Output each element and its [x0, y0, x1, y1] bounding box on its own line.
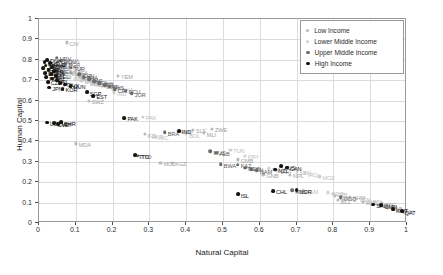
- data-point: [47, 86, 51, 90]
- point-label: ISL: [241, 193, 249, 199]
- y-tick: [35, 100, 38, 101]
- gridline-horizontal: [39, 182, 405, 183]
- point-label: KOR: [66, 87, 78, 93]
- y-tick-label: 0.9: [6, 35, 32, 42]
- legend: Low Income Lower Middle Income Upper Mid…: [300, 20, 404, 74]
- point-label: CAN: [290, 166, 302, 172]
- data-point: [339, 195, 343, 199]
- data-point: [219, 162, 223, 166]
- x-tick: [222, 222, 223, 225]
- data-point: [371, 203, 375, 207]
- x-tick: [296, 222, 297, 225]
- data-point: [61, 87, 65, 91]
- data-point: [92, 80, 96, 84]
- data-point: [243, 166, 247, 170]
- x-tick-label: 1: [404, 226, 408, 233]
- y-tick-label: 0.8: [6, 55, 32, 62]
- x-axis-label: Natural Capital: [38, 248, 406, 257]
- data-point: [159, 161, 162, 164]
- y-tick: [35, 79, 38, 80]
- legend-label: High Income: [315, 60, 352, 67]
- y-tick-label: 0.7: [6, 76, 32, 83]
- data-point: [122, 116, 126, 120]
- y-tick-label: 0.3: [6, 157, 32, 164]
- data-point: [103, 83, 107, 87]
- data-point: [279, 164, 283, 168]
- y-tick: [35, 120, 38, 121]
- y-tick-label: 0.2: [6, 178, 32, 185]
- data-point: [124, 89, 128, 93]
- x-tick-label: 0.2: [107, 226, 117, 233]
- point-label: IND: [182, 129, 191, 135]
- x-tick: [259, 222, 260, 225]
- data-point: [64, 83, 68, 87]
- data-point: [98, 81, 102, 85]
- x-tick: [332, 222, 333, 225]
- x-tick-label: 0.1: [70, 226, 80, 233]
- data-point: [243, 154, 246, 157]
- data-point: [209, 149, 213, 153]
- point-label: MDA: [79, 142, 91, 148]
- point-label: MOZ: [163, 161, 175, 167]
- y-tick: [35, 38, 38, 39]
- x-tick: [185, 222, 186, 225]
- data-point: [43, 71, 47, 75]
- legend-marker-icon: [306, 62, 310, 66]
- data-point: [255, 169, 259, 173]
- y-tick: [35, 202, 38, 203]
- data-point: [379, 204, 383, 208]
- x-tick-label: 0: [36, 226, 40, 233]
- data-point: [78, 72, 82, 76]
- point-label: MOZ: [322, 175, 334, 181]
- legend-item-lower-middle-income: Lower Middle Income: [306, 36, 398, 47]
- point-label: BWA: [224, 163, 236, 169]
- point-label: TUN: [233, 148, 244, 154]
- x-tick: [75, 222, 76, 225]
- data-point: [87, 99, 90, 102]
- data-point: [113, 87, 117, 91]
- data-point: [391, 207, 395, 211]
- point-label: CHL: [276, 189, 287, 195]
- legend-label: Low Income: [314, 27, 350, 34]
- data-point: [318, 175, 321, 178]
- data-point: [400, 209, 404, 213]
- data-point: [134, 153, 138, 157]
- x-tick: [112, 222, 113, 225]
- point-label: PRY: [248, 154, 259, 160]
- data-point: [82, 75, 86, 79]
- gridline-vertical: [223, 19, 224, 221]
- x-tick: [148, 222, 149, 225]
- point-label: PAK: [127, 116, 137, 122]
- point-label: IRQ: [308, 172, 318, 178]
- data-point: [202, 132, 205, 135]
- x-tick: [406, 222, 407, 225]
- data-point: [108, 85, 112, 89]
- legend-marker-icon: [306, 29, 309, 32]
- x-tick-label: 0.5: [217, 226, 227, 233]
- data-point: [42, 66, 46, 70]
- data-point: [236, 193, 240, 197]
- gridline-vertical: [260, 19, 261, 221]
- data-point: [58, 81, 62, 85]
- x-tick-label: 0.6: [254, 226, 264, 233]
- gridline-horizontal: [39, 141, 405, 142]
- data-point: [327, 191, 330, 194]
- x-tick: [38, 222, 39, 225]
- point-label: QAT: [405, 210, 416, 216]
- y-tick-label: 1: [6, 15, 32, 22]
- data-point: [112, 91, 115, 94]
- point-label: NOR: [300, 189, 312, 195]
- data-point: [236, 163, 240, 167]
- legend-label: Upper Middle Income: [315, 49, 378, 56]
- data-point: [74, 142, 77, 145]
- y-tick-label: 0: [6, 219, 32, 226]
- y-tick: [35, 222, 38, 223]
- legend-item-upper-middle-income: Upper Middle Income: [306, 47, 398, 58]
- y-tick: [35, 59, 38, 60]
- data-point: [290, 189, 294, 193]
- data-point: [85, 90, 89, 94]
- point-label: CIV: [70, 41, 79, 47]
- data-point: [117, 74, 120, 77]
- y-tick: [35, 181, 38, 182]
- legend-item-high-income: High Income: [306, 58, 398, 69]
